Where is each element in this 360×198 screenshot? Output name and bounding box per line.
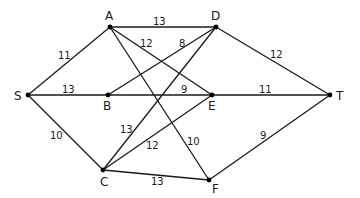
node-a — [108, 25, 113, 30]
node-d — [214, 25, 219, 30]
edge-weight-f-t: 9 — [260, 130, 266, 141]
node-b — [106, 93, 111, 98]
edge-weight-a-e: 12 — [140, 38, 153, 49]
node-f — [207, 178, 212, 183]
edge-a-f — [110, 27, 209, 180]
edge-weight-c-e: 12 — [146, 140, 159, 151]
edge-weight-e-t: 11 — [259, 84, 272, 95]
node-c — [101, 168, 106, 173]
network-diagram: 1113101312108913121312119 SADBETCF — [0, 0, 360, 198]
node-s — [26, 93, 31, 98]
node-label-d: D — [211, 9, 220, 23]
edge-weight-d-t: 12 — [270, 49, 283, 60]
node-label-f: F — [212, 182, 219, 196]
edge-weights-layer: 1113101312108913121312119 — [50, 16, 283, 187]
edges-layer — [28, 27, 330, 180]
edge-f-t — [209, 95, 330, 180]
edge-s-c — [28, 95, 103, 170]
edge-weight-s-c: 10 — [50, 130, 63, 141]
node-label-c: C — [100, 175, 108, 189]
node-e — [210, 93, 215, 98]
edge-weight-s-a: 11 — [58, 50, 71, 61]
edge-weight-s-b: 13 — [62, 84, 75, 95]
node-t — [328, 93, 333, 98]
edge-d-t — [216, 27, 330, 95]
edge-c-d — [103, 27, 216, 170]
edge-weight-c-f: 13 — [151, 176, 164, 187]
edge-weight-a-d: 13 — [153, 16, 166, 27]
edge-weight-a-f: 10 — [187, 136, 200, 147]
edge-weight-b-d: 8 — [179, 38, 185, 49]
node-label-a: A — [105, 9, 114, 23]
edge-weight-c-d: 13 — [120, 124, 133, 135]
edge-weight-b-e: 9 — [181, 84, 187, 95]
node-label-s: S — [14, 89, 22, 103]
node-label-e: E — [208, 99, 216, 113]
node-label-t: T — [335, 89, 344, 103]
node-label-b: B — [103, 99, 111, 113]
